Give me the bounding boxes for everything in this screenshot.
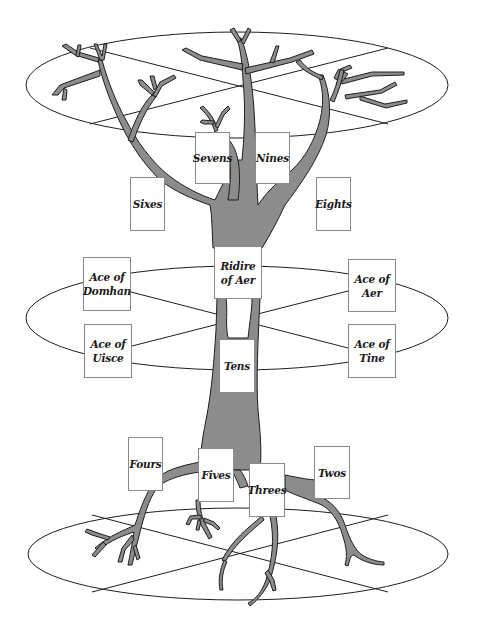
twig-left-7	[150, 76, 157, 90]
card-threes: Threes	[249, 463, 285, 517]
twig-left-1	[52, 70, 100, 95]
card-eights: Eights	[316, 177, 351, 231]
root-fives-4	[196, 520, 201, 530]
twig-right-4	[360, 96, 407, 108]
upper-plane	[26, 32, 448, 138]
card-ace-of-uisce: Ace of Uisce	[84, 324, 132, 378]
root-threes	[222, 516, 264, 562]
twig-top-1	[182, 48, 243, 70]
card-twos: Twos	[314, 446, 350, 499]
card-sixes: Sixes	[130, 177, 165, 231]
card-fours: Fours	[128, 437, 163, 491]
card-nines: Nines	[255, 132, 290, 184]
lower-plane	[28, 508, 448, 600]
tree-diagram: Sevens Nines Sixes Eights Ridire of Aer …	[0, 0, 477, 633]
card-ace-of-domhan: Ace of Domhan	[83, 257, 131, 311]
twig-sevens-3	[200, 120, 214, 124]
twig-top-2	[245, 50, 314, 74]
diagram-canvas	[0, 0, 477, 633]
twig-sevens	[200, 106, 218, 132]
twig-sevens-2	[215, 106, 230, 128]
twig-top-5	[241, 28, 251, 44]
branch-left-2	[128, 95, 156, 142]
card-ace-of-aer: Ace of Aer	[348, 259, 396, 312]
trunk-gap	[226, 298, 252, 338]
card-ace-of-tine: Ace of Tine	[348, 324, 396, 378]
card-fives: Fives	[198, 448, 234, 502]
card-ridire-of-aer: Ridire of Aer	[214, 246, 262, 299]
card-sevens: Sevens	[195, 132, 230, 184]
root-left-2	[85, 529, 110, 540]
root-connector	[232, 470, 248, 488]
root-threes-4	[219, 560, 227, 590]
card-tens: Tens	[219, 339, 255, 393]
twig-right-3	[345, 82, 397, 99]
twig-top-4	[230, 28, 241, 42]
